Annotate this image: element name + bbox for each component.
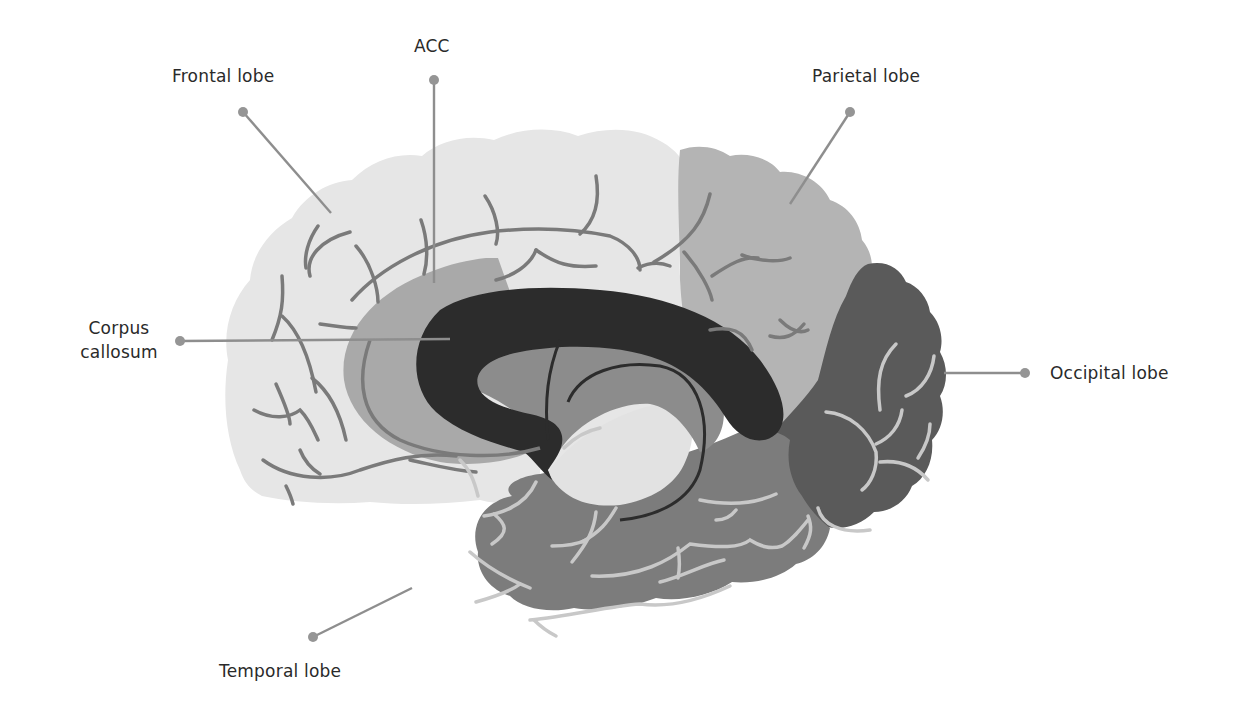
label-parietal-lobe: Parietal lobe xyxy=(812,64,920,88)
acc-dot xyxy=(429,75,439,85)
temporal-dot xyxy=(308,632,318,642)
frontal-dot xyxy=(238,107,248,117)
label-corpus-line2: callosum xyxy=(74,340,164,364)
label-temporal-lobe: Temporal lobe xyxy=(219,659,341,683)
frontal-leader xyxy=(243,112,331,213)
parietal-dot xyxy=(845,107,855,117)
label-corpus-callosum: Corpus callosum xyxy=(74,316,164,364)
occipital-dot xyxy=(1020,368,1030,378)
label-occipital-lobe: Occipital lobe xyxy=(1050,361,1169,385)
corpus-dot xyxy=(175,336,185,346)
brain-diagram: Frontal lobe ACC Parietal lobe Corpus ca… xyxy=(0,0,1242,724)
temporal-leader xyxy=(313,588,412,637)
label-corpus-line1: Corpus xyxy=(74,316,164,340)
label-acc: ACC xyxy=(414,34,450,58)
label-frontal-lobe: Frontal lobe xyxy=(172,64,274,88)
